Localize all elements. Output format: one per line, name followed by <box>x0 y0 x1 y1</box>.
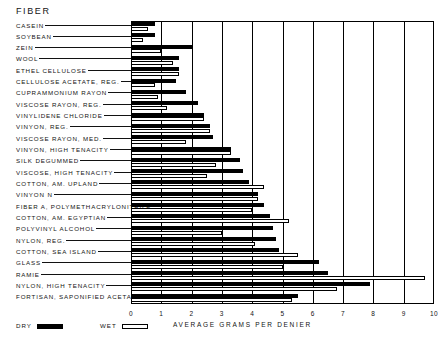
category-label: VINYLIDENE CHLORIDE <box>16 112 103 119</box>
category-label: CUPRAMMONIUM RAYON <box>16 89 107 96</box>
bar-dry <box>131 260 319 264</box>
bar-dry <box>131 135 213 139</box>
bar-dry <box>131 214 270 218</box>
bar-wet <box>131 265 283 269</box>
bar-wet <box>131 117 204 121</box>
bar-wet <box>131 174 207 178</box>
bar-wet <box>131 298 292 302</box>
bar-dry <box>131 56 179 60</box>
category-label: VISCOSE RAYON, REG. <box>16 101 102 108</box>
bar-row: ZEIN <box>0 44 446 55</box>
x-tick-label: 3 <box>214 310 230 317</box>
leader-line <box>103 138 131 139</box>
legend-label-dry: DRY <box>16 322 32 329</box>
leader-line <box>45 25 131 26</box>
bar-dry <box>131 101 198 105</box>
category-label: VINYON, HIGH TENACITY <box>16 146 109 153</box>
bar-wet <box>131 253 298 257</box>
bar-dry <box>131 226 273 230</box>
x-tick-label: 7 <box>335 310 351 317</box>
bar-row: CASEIN <box>0 21 446 32</box>
bar-wet <box>131 27 148 31</box>
x-tick-label: 1 <box>153 310 169 317</box>
bar-wet <box>131 83 155 87</box>
bar-row: CELLULOSE ACETATE, REG. <box>0 78 446 89</box>
bar-wet <box>131 106 167 110</box>
leader-line <box>70 126 132 127</box>
bar-dry <box>131 45 192 49</box>
bar-dry <box>131 158 240 162</box>
bar-dry <box>131 90 186 94</box>
category-label: COTTON, AM. UPLAND <box>16 180 98 187</box>
bar-rows: CASEINSOYBEANZEINWOOLETHEL CELLULOSECELL… <box>0 21 446 304</box>
leader-line <box>99 183 131 184</box>
bar-row: CUPRAMMONIUM RAYON <box>0 89 446 100</box>
category-label: RAMIE <box>16 271 40 278</box>
bar-row: COTTON, SEA ISLAND <box>0 247 446 258</box>
bar-wet <box>131 242 255 246</box>
bar-dry <box>131 79 176 83</box>
bar-dry <box>131 248 279 252</box>
bar-wet <box>131 219 289 223</box>
category-label: SOYBEAN <box>16 33 52 40</box>
bar-row: VISCOSE RAYON, REG. <box>0 100 446 111</box>
bar-wet <box>131 197 258 201</box>
leader-line <box>121 81 131 82</box>
x-tick-label: 9 <box>396 310 412 317</box>
bar-row: WOOL <box>0 55 446 66</box>
leader-line <box>54 194 131 195</box>
x-tick-label: 8 <box>365 310 381 317</box>
leader-line <box>80 160 131 161</box>
bar-row: COTTON, AM. UPLAND <box>0 179 446 190</box>
category-label: NYLON, REG. <box>16 237 65 244</box>
bar-row: VISCOSE RAYON, MED. <box>0 134 446 145</box>
bar-dry <box>131 33 155 37</box>
bar-row: VINYON N <box>0 191 446 202</box>
bar-dry <box>131 113 204 117</box>
leader-line <box>98 251 131 252</box>
bar-row: GLASS <box>0 259 446 270</box>
category-label: VINYON N <box>16 191 53 198</box>
leader-line <box>110 149 131 150</box>
leader-line <box>114 172 131 173</box>
category-label: ZEIN <box>16 44 34 51</box>
bar-wet <box>131 276 425 280</box>
legend-item-wet: WET <box>100 322 148 329</box>
leader-line <box>104 115 131 116</box>
bar-dry <box>131 169 243 173</box>
bar-dry <box>131 124 210 128</box>
category-label: POLYVINYL ALCOHOL <box>16 225 95 232</box>
bar-row: NYLON, REG. <box>0 236 446 247</box>
bar-dry <box>131 271 328 275</box>
x-axis-title: AVERAGE GRAMS PER DENIER <box>173 321 312 328</box>
bar-row: COTTON, AM. EGYPTIAN <box>0 213 446 224</box>
category-label: VINYON, REG. <box>16 123 69 130</box>
bar-wet <box>131 49 161 53</box>
bar-wet <box>131 61 173 65</box>
chart-figure: FIBER CASEINSOYBEANZEINWOOLETHEL CELLULO… <box>0 0 446 341</box>
category-label: CELLULOSE ACETATE, REG. <box>16 78 120 85</box>
leader-line <box>96 228 131 229</box>
bar-row: SILK DEGUMMED <box>0 157 446 168</box>
bar-dry <box>131 22 155 26</box>
bar-dry <box>131 203 264 207</box>
bar-dry <box>131 237 276 241</box>
category-label: VISCOSE, HIGH TENACITY <box>16 169 113 176</box>
legend-item-dry: DRY <box>16 322 63 329</box>
bar-dry <box>131 147 231 151</box>
category-label: SILK DEGUMMED <box>16 157 79 164</box>
bar-row: VINYON, REG. <box>0 123 446 134</box>
leader-line <box>107 217 131 218</box>
bar-wet <box>131 231 222 235</box>
category-label: ETHEL CELLULOSE <box>16 67 87 74</box>
bar-row: FORTISAN, SAPONIFIED ACETATE <box>0 293 446 304</box>
leader-line <box>106 285 131 286</box>
leader-line <box>39 58 131 59</box>
bar-wet <box>131 151 231 155</box>
page-title: FIBER <box>16 6 51 16</box>
x-tick-label: 2 <box>184 310 200 317</box>
category-label: CASEIN <box>16 22 44 29</box>
category-label: COTTON, AM. EGYPTIAN <box>16 214 106 221</box>
leader-line <box>35 47 132 48</box>
bar-dry <box>131 282 370 286</box>
